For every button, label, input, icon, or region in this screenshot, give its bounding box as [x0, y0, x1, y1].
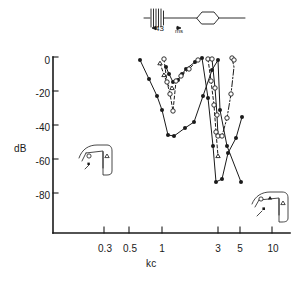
markers-broad-tuning	[138, 58, 243, 184]
legend-right-head-schematic	[249, 188, 297, 230]
tuning-curve-figure: 43 ms dB kc 0 -20 -40 -60 -80 0.3 0.5 1 …	[0, 0, 307, 285]
series-sharp-tuning-low	[166, 58, 216, 182]
markers-open-circle-right	[206, 56, 236, 138]
markers-open-triangle	[158, 61, 220, 157]
legend-open-circle-icon	[87, 154, 91, 158]
legend-filled-square-icon	[262, 207, 265, 210]
legend-open-triangle-icon	[281, 201, 285, 205]
legend-open-triangle-icon	[105, 154, 109, 158]
series-open-circle-dashed	[164, 59, 198, 111]
series-right-descending	[216, 117, 242, 182]
legend-left-head-schematic	[76, 141, 118, 183]
series-open-circle-right-c	[222, 58, 234, 136]
legend-filled-marker-icon	[87, 163, 89, 165]
legend-filled-triangle-icon	[268, 196, 272, 200]
legend-open-circle-icon	[259, 197, 263, 201]
plot-area	[0, 0, 307, 285]
